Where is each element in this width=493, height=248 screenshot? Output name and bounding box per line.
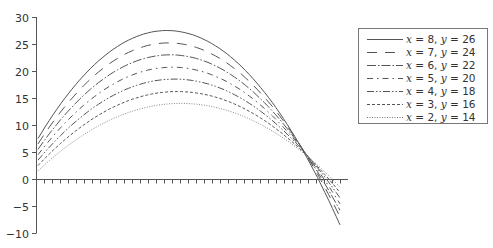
series-lines — [38, 31, 340, 225]
x-axis — [36, 180, 348, 184]
legend-item: x = 2, y = 14 — [359, 111, 487, 124]
legend-item: x = 8, y = 26 — [359, 33, 487, 46]
legend-item: x = 4, y = 18 — [359, 85, 487, 98]
legend-swatch-long-dash — [367, 46, 403, 59]
legend-item: x = 7, y = 24 — [359, 46, 487, 59]
series-line — [38, 103, 340, 187]
legend-swatch-dash-dot-dot — [367, 85, 403, 98]
y-axis: −10−5051015202530 — [6, 12, 37, 241]
series-line — [38, 92, 340, 193]
series-line — [38, 31, 340, 225]
legend: x = 8, y = 26 x = 7, y = 24 x = 6, y = 2… — [358, 28, 488, 124]
legend-item: x = 3, y = 16 — [359, 98, 487, 111]
y-tick-label: 25 — [15, 39, 29, 52]
y-tick-label: −5 — [13, 201, 29, 214]
legend-swatch-dash-dot — [367, 59, 403, 72]
y-tick-label: 30 — [15, 12, 29, 25]
legend-swatch-dotted — [367, 111, 403, 124]
y-tick-label: −10 — [6, 228, 29, 241]
y-tick-label: 5 — [22, 147, 29, 160]
y-tick-label: 0 — [22, 174, 29, 187]
legend-item: x = 5, y = 20 — [359, 72, 487, 85]
y-tick-label: 10 — [15, 120, 29, 133]
series-line — [38, 43, 340, 217]
legend-swatch-dash-dot-gap — [367, 72, 403, 85]
legend-swatch-solid — [367, 33, 403, 46]
y-tick-label: 20 — [15, 66, 29, 79]
y-tick-label: 15 — [15, 93, 29, 106]
series-line — [38, 55, 340, 211]
legend-item: x = 6, y = 22 — [359, 59, 487, 72]
legend-swatch-short-dash — [367, 98, 403, 111]
